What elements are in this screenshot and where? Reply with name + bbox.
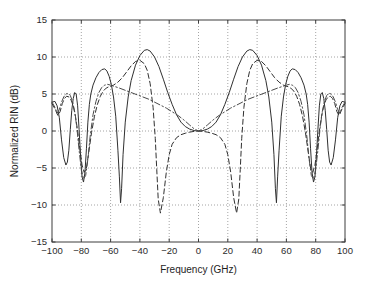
- rin-frequency-line-chart: −100−80−60−40−20020406080100−15−10−50510…: [0, 0, 370, 283]
- x-tick-label: −20: [161, 245, 177, 256]
- x-tick-label: −40: [132, 245, 148, 256]
- x-axis-title: Frequency (GHz): [160, 264, 237, 275]
- x-tick-label: −60: [103, 245, 119, 256]
- y-tick-label: 15: [36, 14, 47, 25]
- chart-figure: −100−80−60−40−20020406080100−15−10−50510…: [0, 0, 370, 283]
- x-tick-label: 60: [281, 245, 292, 256]
- x-tick-label: 40: [252, 245, 263, 256]
- x-tick-label: 20: [223, 245, 234, 256]
- y-axis-title: Normalized RIN (dB): [9, 85, 20, 177]
- x-tick-label: 100: [337, 245, 353, 256]
- x-tick-label: −80: [73, 245, 89, 256]
- y-tick-label: −15: [31, 236, 47, 247]
- y-tick-label: 5: [42, 88, 47, 99]
- y-tick-label: −5: [36, 162, 47, 173]
- x-tick-label: 80: [310, 245, 321, 256]
- y-tick-label: 10: [36, 51, 47, 62]
- y-tick-label: −10: [31, 199, 47, 210]
- x-tick-label: 0: [196, 245, 201, 256]
- y-tick-label: 0: [42, 125, 47, 136]
